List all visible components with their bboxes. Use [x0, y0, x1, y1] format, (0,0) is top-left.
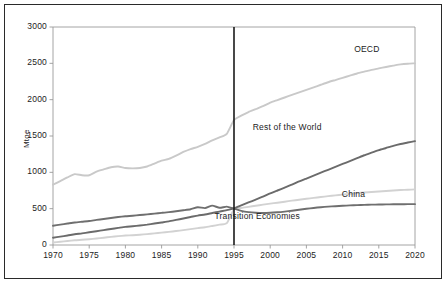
x-axis-tick-label: 2015: [363, 250, 395, 260]
x-axis-tick-label: 1990: [182, 250, 214, 260]
y-axis-tick-label: 2500: [27, 57, 47, 67]
x-axis-tick-label: 2010: [327, 250, 359, 260]
figure-container: 3000250020001500100050001970197519801985…: [0, 0, 446, 288]
y-axis-tick-label: 500: [32, 203, 47, 213]
series-label-china: China: [342, 189, 365, 199]
series-label-rest-of-the-world: Rest of the World: [253, 122, 322, 132]
y-axis-title: Mtoe: [22, 129, 31, 148]
x-axis-tick-label: 2020: [399, 250, 431, 260]
x-axis-tick-label: 2005: [290, 250, 322, 260]
y-axis-tick-label: 2000: [27, 94, 47, 104]
x-axis-tick-label: 1980: [109, 250, 141, 260]
y-axis-tick-label: 0: [42, 239, 47, 249]
x-axis-tick-label: 1985: [146, 250, 178, 260]
x-axis-tick-label: 1975: [73, 250, 105, 260]
series-label-transition-economies: Transition Economies: [214, 211, 299, 221]
x-axis-tick-label: 1970: [37, 250, 69, 260]
x-axis-tick-label: 2000: [254, 250, 286, 260]
y-axis-tick-label: 3000: [27, 21, 47, 31]
y-axis-tick-label: 1000: [27, 166, 47, 176]
x-axis-tick-label: 1995: [218, 250, 250, 260]
series-label-oecd: OECD: [354, 44, 379, 54]
